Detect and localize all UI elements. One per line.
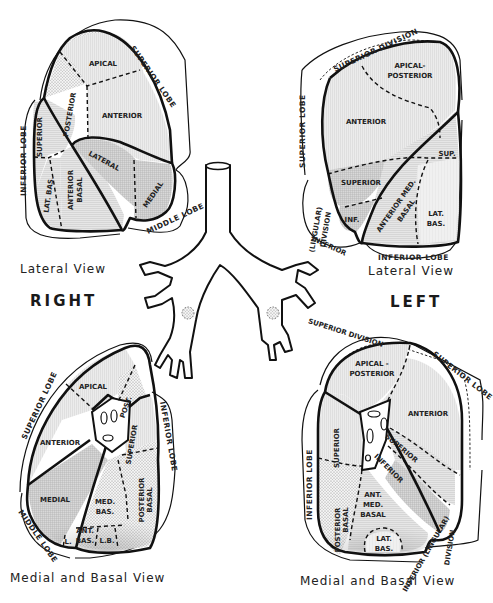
label-anterior: ANTERIOR [408, 410, 449, 418]
label-lat-bas-2: BAS. [375, 545, 393, 553]
caption-left-medial: Medial and Basal View [300, 574, 455, 588]
lobe-label-lingular-2: DIVISION [443, 529, 457, 566]
lobe-label-superior: SUPERIOR LOBE [298, 94, 307, 168]
label-apical-posterior-2: POSTERIOR [387, 72, 433, 80]
trachea-opening [206, 163, 230, 170]
lobe-label-superior-division: SUPERIOR DIVISION [307, 317, 384, 349]
label-superior: SUPERIOR [36, 116, 44, 157]
label-medial: MEDIAL [40, 496, 71, 504]
label-ant-med-basal-3: BASAL [360, 511, 386, 519]
label-anterior-basal-2: BASAL [76, 177, 84, 203]
label-sup: SUP. [438, 150, 455, 158]
label-posterior-basal-2: BASAL [342, 507, 350, 533]
label-apical-posterior-1: APICAL- [394, 62, 425, 70]
label-lat-bas-2: BAS. [427, 220, 445, 228]
lobe-label-inferior: INFERIOR LOBE [305, 449, 314, 520]
caption-right-medial: Medial and Basal View [10, 571, 165, 585]
caption-left-lateral: Lateral View [368, 264, 454, 278]
label-anterior: ANTERIOR [40, 439, 81, 447]
lobe-label-inferior: INFERIOR LOBE [378, 253, 449, 262]
label-anterior: ANTERIOR [102, 112, 143, 120]
caption-right-lateral: Lateral View [20, 262, 106, 276]
bronchus-marker-left [267, 307, 279, 319]
label-apical-posterior-2: POSTERIOR [349, 370, 395, 378]
lobe-label-inferior: INFERIOR LOBE [158, 401, 179, 472]
label-superior: SUPERIOR [333, 427, 341, 468]
panel-left-lateral: APICAL- POSTERIOR ANTERIOR SUP. SUPERIOR… [298, 27, 462, 278]
label-posterior-basal-2: BASAL [146, 487, 154, 513]
label-lat-bas-1: LAT. [376, 535, 392, 543]
side-label-right: RIGHT [30, 292, 97, 310]
panel-right-medial: APICAL POST. ANTERIOR SUPERIOR MEDIAL ME… [10, 343, 179, 585]
label-posterior-basal-1: POSTERIOR [334, 507, 342, 553]
label-l: L. [64, 538, 71, 546]
label-apical: APICAL [79, 383, 108, 391]
bronchus-marker-right [182, 307, 194, 319]
label-ant-bas-2: BAS. [76, 537, 94, 545]
label-inf: INF. [345, 216, 360, 224]
label-ant-bas-1: ANT. [76, 527, 94, 535]
label-med-bas-2: BAS. [96, 508, 114, 516]
label-ant-med-basal-1: ANT. [364, 491, 382, 499]
segment-lat-bas [417, 158, 460, 244]
label-anterior-basal-1: ANTERIOR [67, 169, 75, 210]
lobe-label-inferior: INFERIOR LOBE [19, 125, 28, 196]
panel-left-medial: APICAL - POSTERIOR ANTERIOR SUPERIOR SUP… [300, 317, 493, 593]
label-med-bas-1: MED. [95, 498, 115, 506]
panel-right-lateral: APICAL POSTERIOR ANTERIOR SUPERIOR LATER… [19, 20, 205, 276]
label-lat-bas-1: LAT. [428, 210, 444, 218]
side-label-left: LEFT [390, 293, 442, 311]
label-apical: APICAL [89, 60, 118, 68]
label-apical-posterior-1: APICAL - [355, 360, 389, 368]
label-posterior-basal-1: POSTERIOR [138, 477, 146, 523]
label-anterior: ANTERIOR [346, 118, 387, 126]
label-lb: L.B. [99, 537, 114, 545]
bronchopulmonary-diagram: APICAL POSTERIOR ANTERIOR SUPERIOR LATER… [0, 0, 493, 603]
label-superior: SUPERIOR [341, 179, 382, 187]
label-ant-med-basal-2: MED. [363, 501, 383, 509]
